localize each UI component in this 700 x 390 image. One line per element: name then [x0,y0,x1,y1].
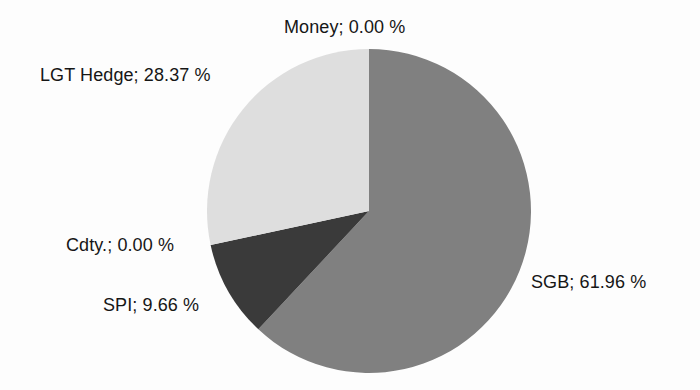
pie-chart-svg [0,0,700,390]
pie-label-lgt-hedge: LGT Hedge; 28.37 % [40,66,211,84]
pie-label-cdty: Cdty.; 0.00 % [66,236,174,254]
pie-slice-lgt-hedge [207,49,369,245]
pie-slice-group [207,49,531,373]
pie-chart-figure: Money; 0.00 % LGT Hedge; 28.37 % Cdty.; … [0,0,700,390]
pie-label-money: Money; 0.00 % [284,18,405,36]
pie-label-sgb: SGB; 61.96 % [531,273,646,291]
pie-label-spi: SPI; 9.66 % [103,296,199,314]
